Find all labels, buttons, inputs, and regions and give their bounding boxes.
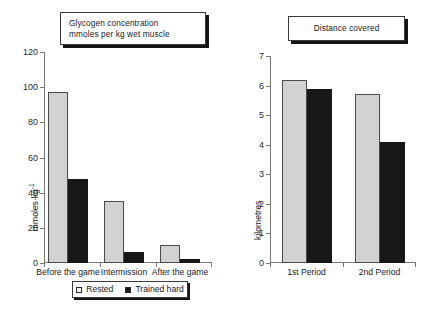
x-axis-tick	[44, 263, 45, 267]
chart-panel-glycogen: Glycogen concentration mmoles per kg wet…	[0, 0, 228, 313]
chart-panel-distance: Distance covered 01234567 1st Period2nd …	[228, 0, 431, 313]
bar-rested	[282, 80, 307, 263]
y-axis-tick-label: 4	[259, 140, 264, 149]
y-axis-title-exponent: -1	[28, 183, 35, 189]
y-axis-tick	[266, 174, 270, 175]
y-axis-tick	[266, 115, 270, 116]
chart-title-line: Glycogen concentration	[69, 18, 158, 29]
chart-title-line: Distance covered	[314, 23, 380, 34]
y-axis-tick	[40, 158, 44, 159]
legend-item-trained-hard: Trained hard	[125, 285, 183, 294]
y-axis-tick	[266, 56, 270, 57]
y-axis-tick-label: 80	[28, 118, 38, 127]
legend-label: Trained hard	[135, 285, 183, 294]
bar-rested	[355, 94, 380, 263]
y-axis-tick	[40, 52, 44, 53]
x-axis-tick	[211, 263, 212, 267]
y-axis-tick	[266, 145, 270, 146]
y-axis-tick-label: 5	[259, 111, 264, 120]
x-axis-category-label: 2nd Period	[359, 268, 401, 277]
legend-glycogen: Rested Trained hard	[72, 281, 188, 298]
bar-trained-hard	[307, 89, 332, 263]
y-axis-tick-label: 60	[28, 153, 38, 162]
y-axis-tick	[40, 87, 44, 88]
bar-trained-hard	[68, 179, 88, 263]
bar-trained-hard	[180, 259, 200, 263]
bar-rested	[48, 92, 68, 263]
plot-area-distance: 01234567 1st Period2nd Period kilometres	[270, 56, 416, 263]
x-axis-category-label: After the game	[152, 268, 208, 277]
x-axis-category-label: 1st Period	[287, 268, 326, 277]
x-axis-category-label: Before the game	[36, 268, 100, 277]
y-axis-tick-label: 6	[259, 81, 264, 90]
y-axis-tick-label: 0	[259, 259, 264, 268]
chart-title-line: mmoles per kg wet muscle	[69, 29, 170, 40]
x-axis-tick	[156, 263, 157, 267]
y-axis-line	[44, 52, 45, 263]
x-axis-tick	[343, 263, 344, 267]
chart-title-box-glycogen: Glycogen concentration mmoles per kg wet…	[60, 12, 206, 45]
y-axis-title-text: mmoles·kg	[30, 189, 40, 231]
y-axis-tick	[266, 86, 270, 87]
bar-trained-hard	[124, 252, 144, 263]
y-axis-tick	[40, 122, 44, 123]
y-axis-tick	[40, 193, 44, 194]
legend-label: Rested	[86, 285, 113, 294]
bar-trained-hard	[380, 142, 405, 263]
y-axis-tick-label: 7	[259, 52, 264, 61]
legend-item-rested: Rested	[76, 285, 113, 294]
y-axis-line	[270, 56, 271, 263]
y-axis-tick-label: 120	[23, 48, 38, 57]
y-axis-tick	[266, 233, 270, 234]
y-axis-tick	[40, 228, 44, 229]
x-axis-tick	[100, 263, 101, 267]
chart-title-box-distance: Distance covered	[288, 16, 405, 41]
legend-swatch-trained-hard-icon	[125, 287, 131, 293]
y-axis-title-text: kilometres	[253, 201, 263, 240]
y-axis-title-glycogen: mmoles·kg-1	[29, 172, 39, 242]
x-axis-category-label: Intermission	[101, 268, 147, 277]
bar-rested	[104, 201, 124, 263]
y-axis-tick-label: 3	[259, 170, 264, 179]
legend-swatch-rested-icon	[76, 287, 82, 293]
bar-rested	[160, 245, 180, 263]
y-axis-tick	[266, 204, 270, 205]
x-axis-tick	[270, 263, 271, 267]
y-axis-tick-label: 100	[23, 83, 38, 92]
x-axis-tick	[415, 263, 416, 267]
plot-area-glycogen: 020406080100120 Before the gameIntermiss…	[44, 52, 212, 263]
y-axis-title-distance: kilometres	[254, 185, 263, 255]
